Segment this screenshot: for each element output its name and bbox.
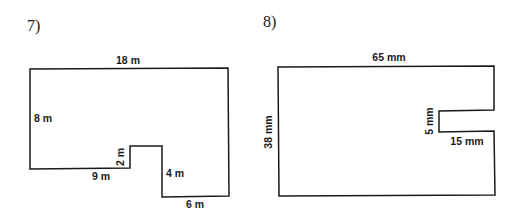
figure-7-outline (30, 68, 229, 197)
label-notch-2m: 2 m (114, 148, 126, 166)
label-step-4m: 4 m (166, 167, 184, 179)
label-top-65mm: 65 mm (372, 51, 405, 63)
label-bottom-6m: 6 m (186, 198, 204, 210)
label-notch-15mm: 15 mm (450, 135, 483, 147)
label-notch-5mm: 5 mm (423, 107, 435, 134)
diagram-canvas: 7) 18 m 8 m 2 m 9 m 4 m 6 m 8) 65 mm 38 … (0, 0, 520, 218)
label-top-18m: 18 m (116, 54, 140, 66)
label-bottom-9m: 9 m (92, 170, 110, 182)
figure-8-outline (278, 66, 495, 196)
label-left-38mm: 38 mm (262, 115, 274, 148)
problem-number-8: 8) (263, 13, 276, 31)
figure-8: 8) 65 mm 38 mm 5 mm 15 mm (262, 13, 495, 196)
problem-number-7: 7) (27, 17, 40, 35)
label-left-8m: 8 m (34, 112, 52, 124)
figure-7: 7) 18 m 8 m 2 m 9 m 4 m 6 m (27, 17, 229, 210)
